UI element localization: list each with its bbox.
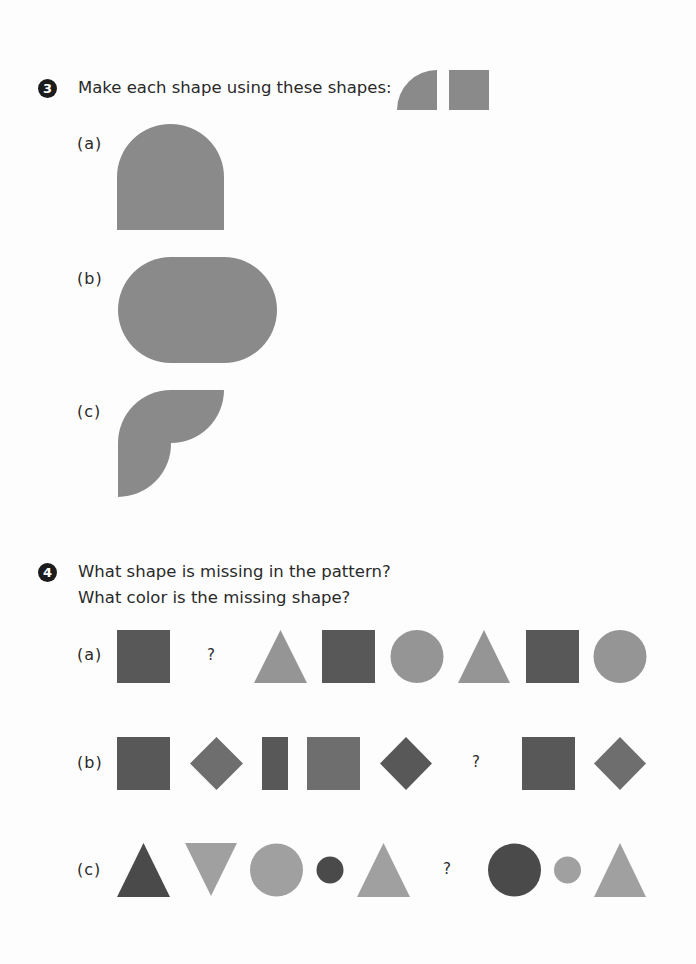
light-inverted-triangle [185, 843, 237, 896]
small-dark-circle [317, 857, 344, 884]
dark-triangle [117, 843, 170, 897]
light-circle [250, 844, 303, 897]
missing-shape-mark: ? [443, 860, 451, 878]
small-light-circle [554, 857, 581, 884]
light-triangle [594, 843, 646, 897]
dark-circle [488, 844, 541, 897]
light-triangle [357, 843, 410, 897]
pattern-row-c [0, 0, 696, 964]
